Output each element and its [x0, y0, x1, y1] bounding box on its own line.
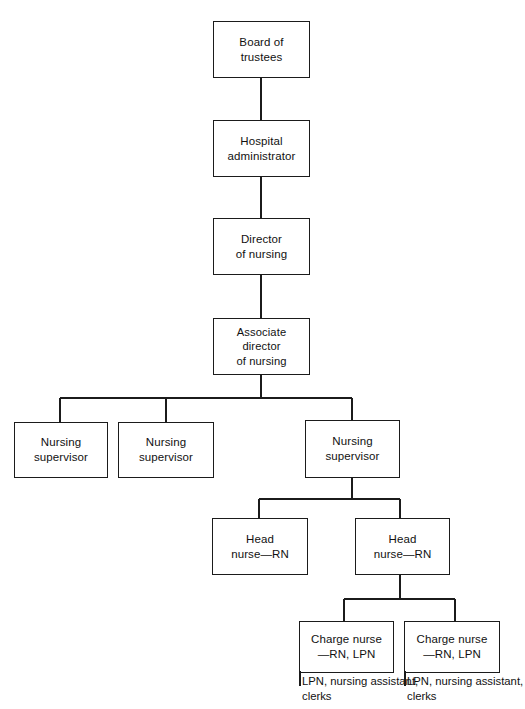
org-node-label-charge1: Charge nurse —RN, LPN	[308, 632, 385, 661]
org-chart-canvas: Board of trusteesHospital administratorD…	[0, 0, 525, 709]
org-leaf-leaf1: LPN, nursing assistant, clerks	[299, 674, 418, 704]
org-node-label-admin: Hospital administrator	[225, 134, 299, 163]
org-node-label-assoc: Associate director of nursing	[214, 325, 309, 368]
org-node-board: Board of trustees	[213, 21, 310, 78]
org-node-assoc: Associate director of nursing	[213, 318, 310, 375]
org-node-label-sup3: Nursing supervisor	[322, 434, 382, 463]
org-leaf-leaf2: LPN, nursing assistant, clerks	[404, 674, 523, 704]
org-node-label-head1: Head nurse—RN	[228, 532, 292, 561]
org-node-label-sup2: Nursing supervisor	[136, 435, 196, 464]
org-node-admin: Hospital administrator	[213, 120, 310, 177]
org-node-label-director: Director of nursing	[233, 232, 291, 261]
org-node-sup2: Nursing supervisor	[118, 422, 214, 478]
org-node-director: Director of nursing	[213, 218, 310, 275]
org-node-label-head2: Head nurse—RN	[371, 532, 435, 561]
org-node-sup3: Nursing supervisor	[305, 420, 400, 478]
org-node-label-sup1: Nursing supervisor	[31, 435, 91, 464]
org-node-head1: Head nurse—RN	[212, 518, 308, 575]
org-node-charge2: Charge nurse —RN, LPN	[404, 621, 500, 673]
org-node-sup1: Nursing supervisor	[14, 422, 108, 478]
org-node-label-charge2: Charge nurse —RN, LPN	[414, 632, 491, 661]
org-node-head2: Head nurse—RN	[355, 518, 450, 575]
org-node-charge1: Charge nurse —RN, LPN	[299, 621, 394, 673]
org-node-label-board: Board of trustees	[236, 35, 286, 64]
